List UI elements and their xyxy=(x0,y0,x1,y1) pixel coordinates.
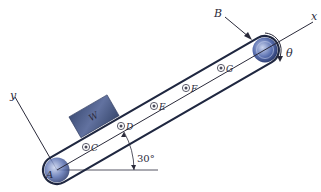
x-axis-label: x xyxy=(311,10,318,23)
pulley-a-label: A xyxy=(45,169,53,180)
idler-g xyxy=(217,64,224,71)
y-axis xyxy=(15,97,57,170)
theta-arrowhead-icon xyxy=(277,56,283,62)
idler-f-label: F xyxy=(190,84,198,94)
conveyor-diagram: y x A B θ W C D E F xyxy=(0,0,321,192)
theta-label: θ xyxy=(286,47,293,60)
idler-g-label: G xyxy=(226,64,233,74)
idler-c xyxy=(82,143,89,150)
idler-f xyxy=(182,84,189,91)
angle-arc xyxy=(124,132,134,170)
y-axis-label: y xyxy=(9,89,17,102)
b-leader-line xyxy=(225,17,249,37)
idler-d xyxy=(117,122,124,129)
pulley-b-label: B xyxy=(213,7,222,20)
angle-label: 30° xyxy=(137,153,155,164)
idler-d-label: D xyxy=(125,122,133,132)
idler-c-label: C xyxy=(91,143,98,153)
idler-e-label: E xyxy=(158,102,166,112)
angle-arrowhead-bottom-icon xyxy=(131,165,136,170)
